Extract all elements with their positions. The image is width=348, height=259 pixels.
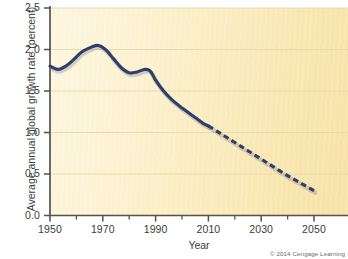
x-tick-label: 1990 (134, 223, 178, 235)
x-tick-label: 2050 (292, 223, 336, 235)
y-axis-ticks (44, 8, 50, 216)
chart-canvas (0, 0, 348, 259)
x-tick-label: 2010 (186, 223, 230, 235)
x-tick-label: 1970 (81, 223, 125, 235)
x-tick-label: 2030 (239, 223, 283, 235)
population-growth-rate-chart: 0.00.51.01.52.02.5 195019701990201020302… (0, 0, 348, 259)
y-axis-title: Average annual global growth rate (perce… (25, 0, 37, 219)
gridlines (50, 8, 348, 174)
line-shadow (51, 47, 315, 192)
x-tick-label: 1950 (28, 223, 72, 235)
copyright-notice: © 2014 Cengage Learning (270, 250, 345, 257)
x-axis-ticks (50, 216, 314, 222)
